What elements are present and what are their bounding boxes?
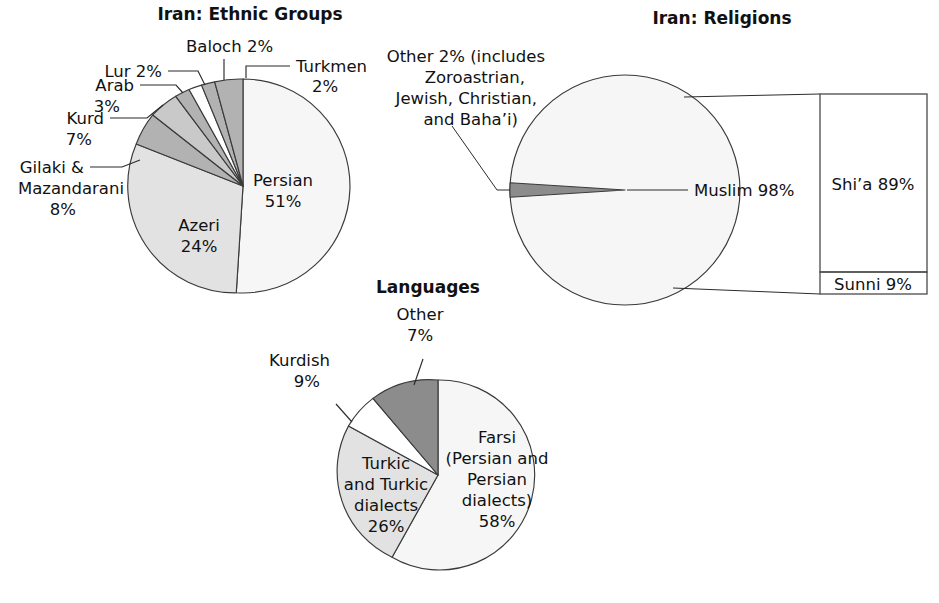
languages-label-turkic-line3: dialects <box>354 496 418 515</box>
ethnic-label-turkmen-pct: 2% <box>312 77 338 96</box>
ethnic-label-kurd-pct: 7% <box>66 130 92 149</box>
languages-label-farsi-line4: dialects) <box>462 491 532 510</box>
religions-label-muslim: Muslim 98% <box>694 181 794 200</box>
breakout-connector-bottom <box>673 288 820 294</box>
ethnic-label-turkmen: Turkmen <box>295 57 367 76</box>
leader-religions-other <box>452 126 510 190</box>
ethnic-label-persian: Persian <box>253 171 313 190</box>
religions-label-other-line2: Zoroastrian, <box>425 68 525 87</box>
ethnic-label-gilaki-line2: Mazandarani <box>18 179 124 198</box>
religions-label-other-line3: Jewish, Christian, <box>395 89 537 108</box>
ethnic-label-azeri-pct: 24% <box>181 237 218 256</box>
religions-label-sunni: Sunni 9% <box>834 275 912 294</box>
leader-lur <box>168 71 205 85</box>
leader-turkmen <box>246 66 290 78</box>
ethnic-label-gilaki-line1: Gilaki & <box>20 158 84 177</box>
ethnic-label-azeri: Azeri <box>178 216 219 235</box>
languages-label-farsi-line1: Farsi <box>478 428 516 447</box>
religions-label-other-line4: and Baha’i) <box>423 110 518 129</box>
languages-label-other-pct: 7% <box>407 326 433 345</box>
ethnic-label-kurd: Kurd <box>67 109 104 128</box>
languages-title: Languages <box>376 277 480 297</box>
languages-label-turkic-line1: Turkic <box>361 454 410 473</box>
languages-label-farsi-line2: (Persian and <box>446 449 549 468</box>
languages-label-kurdish: Kurdish <box>269 351 330 370</box>
languages-label-other: Other <box>397 305 444 324</box>
religions-label-shia: Shi’a 89% <box>832 175 915 194</box>
languages-chart: Languages Other 7% Kurdish 9% Farsi (Per… <box>269 277 548 570</box>
languages-label-turkic-line2: and Turkic <box>344 475 428 494</box>
religions-label-other-line1: Other 2% (includes <box>387 47 545 66</box>
breakout-connector-top <box>684 94 820 97</box>
languages-label-farsi-line3: Persian <box>467 470 527 489</box>
infographic-figure: Iran: Ethnic Groups <box>0 0 939 603</box>
leader-languages-kurdish <box>336 404 352 422</box>
charts-canvas: Iran: Ethnic Groups <box>0 0 939 603</box>
ethnic-label-baloch: Baloch 2% <box>186 37 273 56</box>
languages-label-turkic-pct: 26% <box>368 517 405 536</box>
languages-label-kurdish-pct: 9% <box>294 372 320 391</box>
ethnic-groups-title: Iran: Ethnic Groups <box>157 4 342 24</box>
ethnic-label-gilaki-pct: 8% <box>50 200 76 219</box>
ethnic-groups-chart: Iran: Ethnic Groups <box>18 4 367 293</box>
religions-chart: Iran: Religions Shi’a 89% Sunni 9% Musli… <box>387 8 927 305</box>
leader-arab <box>140 85 183 93</box>
ethnic-label-arab: Arab <box>95 76 134 95</box>
languages-label-farsi-pct: 58% <box>479 512 516 531</box>
ethnic-label-persian-pct: 51% <box>265 192 302 211</box>
religions-title: Iran: Religions <box>652 8 791 28</box>
